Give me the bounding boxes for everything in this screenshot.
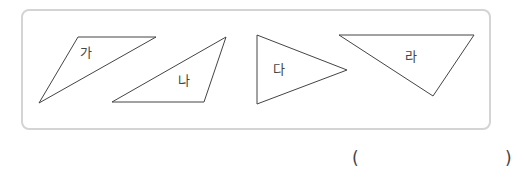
triangle-label-ga: 가	[80, 46, 92, 59]
triangle-label-na: 나	[178, 74, 190, 87]
triangle-ga	[39, 37, 156, 103]
triangles-figure	[0, 0, 525, 177]
triangle-label-ra: 라	[405, 50, 417, 63]
answer-blank[interactable]	[364, 152, 500, 170]
triangle-label-da: 다	[273, 63, 285, 76]
answer-close-paren: )	[505, 150, 512, 167]
triangle-da	[257, 35, 347, 104]
triangle-na	[112, 37, 226, 102]
triangle-ra	[339, 35, 474, 96]
answer-open-paren: (	[352, 150, 359, 167]
